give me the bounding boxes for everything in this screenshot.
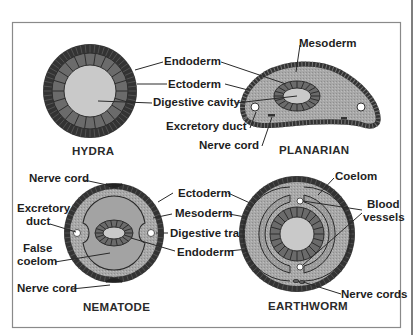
- label-vessels: vessels: [363, 211, 405, 223]
- title-earthworm: EARTHWORM: [268, 300, 348, 312]
- label-ectoderm-top: Ectoderm: [168, 78, 221, 90]
- cell-wall: [292, 176, 293, 182]
- title-nematode: NEMATODE: [83, 301, 150, 313]
- earthworm-blood-vessel-top: [297, 198, 303, 204]
- leader-ectoderm-earthworm: [228, 193, 250, 203]
- label-endoderm-bottom: Endoderm: [177, 246, 234, 258]
- cell-wall: [302, 176, 303, 182]
- title-planarian: PLANARIAN: [279, 144, 349, 156]
- cell-wall: [349, 239, 355, 240]
- label-excretory: Excretory: [17, 202, 71, 214]
- earthworm-digestive-tract: [280, 217, 314, 251]
- label-coelom-earthworm: Coelom: [335, 170, 377, 182]
- label-false: False: [23, 242, 52, 254]
- label-nerve-cord-nematode-bottom: Nerve cord: [17, 282, 77, 294]
- cell-wall: [239, 229, 245, 230]
- nematode-digestive-tract: [103, 227, 125, 239]
- cell-wall: [239, 239, 245, 240]
- planarian-nerve-cord-left: [268, 114, 275, 117]
- label-nerve-cord-nematode-top: Nerve cord: [29, 172, 89, 184]
- label-mesoderm-bottom: Mesoderm: [175, 207, 233, 219]
- earthworm-nerve-cord-a: [293, 280, 299, 283]
- nematode-cross-section: [64, 183, 164, 283]
- label-ectoderm-bottom: Ectoderm: [178, 187, 231, 199]
- label-digestive-tract: Digestive tract: [170, 227, 249, 239]
- label-nerve-cords: Nerve cords: [341, 288, 407, 300]
- hydra-digestive-cavity: [64, 65, 116, 117]
- title-hydra: HYDRA: [72, 145, 114, 157]
- label-excretory-duct: Excretory duct: [166, 120, 247, 132]
- cell-wall: [292, 286, 293, 292]
- label-blood: Blood: [367, 198, 400, 210]
- leader-endoderm-top: [135, 62, 163, 70]
- earthworm-blood-vessel-bottom: [297, 264, 303, 270]
- label-endoderm-top: Endoderm: [164, 55, 221, 67]
- label-duct: duct: [26, 215, 50, 227]
- hydra-cross-section: [43, 44, 137, 138]
- label-coelom: coelom: [17, 255, 57, 267]
- label-nerve-cord-planarian: Nerve cord: [199, 139, 259, 151]
- nematode-nerve-cord-bottom: [106, 279, 122, 282]
- label-digestive-cavity: Digestive cavity: [153, 96, 241, 108]
- cell-wall: [349, 229, 355, 230]
- planarian-nerve-cord-right: [341, 117, 347, 120]
- leader-ectoderm-planarian: [225, 84, 248, 90]
- nematode-excretory-duct-right: [148, 230, 155, 237]
- leader-ectoderm-nematode: [158, 193, 173, 202]
- body-plan-diagram: Endoderm Ectoderm Digestive cavity HYDRA…: [0, 0, 419, 335]
- planarian-cross-section: [242, 64, 378, 126]
- planarian-excretory-duct-right: [357, 103, 365, 111]
- cell-wall: [302, 286, 303, 292]
- leader-nerve-cord-nematode-bottom: [72, 285, 110, 289]
- planarian-excretory-duct-left: [251, 103, 259, 111]
- nematode-excretory-duct-left: [74, 230, 81, 237]
- label-mesoderm: Mesoderm: [299, 37, 357, 49]
